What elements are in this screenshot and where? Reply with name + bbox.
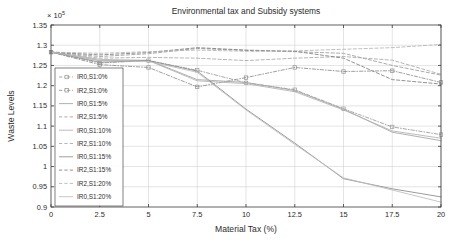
- y-tick-label: 1.1: [37, 122, 47, 131]
- legend-label[interactable]: IR2,S1:20%: [77, 180, 111, 187]
- y-tick-label: 0.9: [37, 203, 47, 212]
- chart-figure: 02.557.51012.51517.5200.90.9511.051.11.1…: [0, 0, 453, 248]
- x-tick-label: 0: [49, 210, 53, 219]
- y-tick-label: 1.05: [33, 142, 47, 151]
- y-axis-exponent: × 105: [47, 10, 65, 20]
- legend-label[interactable]: IR2,S1:10%: [77, 140, 111, 147]
- x-tick-label: 12.5: [288, 210, 302, 219]
- x-axis-title: Material Tax (%): [215, 224, 277, 234]
- y-tick-label: 1.35: [33, 21, 47, 30]
- legend-label[interactable]: IR0,S1:20%: [77, 193, 111, 200]
- x-tick-label: 10: [242, 210, 250, 219]
- y-axis-title: Waste Levels: [6, 90, 16, 141]
- x-tick-label: 2.5: [95, 210, 105, 219]
- line-chart: 02.557.51012.51517.5200.90.9511.051.11.1…: [0, 0, 453, 248]
- legend-label[interactable]: IR0,S1:15%: [77, 153, 111, 160]
- y-tick-label: 0.95: [33, 182, 47, 191]
- legend-label[interactable]: IR2,S1:0%: [77, 87, 108, 94]
- y-tick-label: 1.25: [33, 61, 47, 70]
- legend-label[interactable]: IR2,S1:15%: [77, 166, 111, 173]
- x-tick-label: 20: [437, 210, 445, 219]
- y-tick-label: 1.3: [37, 41, 47, 50]
- x-tick-label: 5: [146, 210, 150, 219]
- legend-label[interactable]: IR0,S1:10%: [77, 127, 111, 134]
- y-tick-label: 1.2: [37, 81, 47, 90]
- chart-legend[interactable]: IR0,S1:0%IR2,S1:0%IR0,S1:5%IR2,S1:5%IR0,…: [55, 68, 123, 206]
- chart-title: Environmental tax and Subsidy systems: [172, 6, 321, 16]
- y-tick-label: 1: [43, 162, 47, 171]
- x-tick-label: 7.5: [192, 210, 202, 219]
- x-tick-label: 15: [339, 210, 347, 219]
- legend-label[interactable]: IR0,S1:5%: [77, 100, 108, 107]
- legend-label[interactable]: IR0,S1:0%: [77, 73, 108, 80]
- y-tick-label: 1.15: [33, 101, 47, 110]
- legend-label[interactable]: IR2,S1:5%: [77, 113, 108, 120]
- x-tick-label: 17.5: [385, 210, 399, 219]
